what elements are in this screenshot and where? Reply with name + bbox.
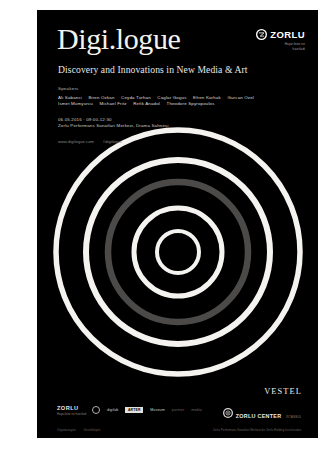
zorlu-center-mark-icon	[223, 408, 233, 418]
speaker-name: Efren Karhak	[193, 95, 221, 100]
header-block: Digi.logue Discovery and Innovations in …	[57, 24, 267, 144]
event-venue: Zorlu Performans Sanatlari Merkezi, Dram…	[58, 123, 267, 129]
footer-right-note: Zorlu Performans Sanatlari Merkezi bir Z…	[213, 428, 302, 432]
ring-3	[108, 182, 248, 322]
zorlu-tagline-line2: hazirladi	[293, 47, 305, 51]
speaker-name: Theodore Spyropoulos	[167, 101, 215, 106]
speaker-name: Biren Ozkan	[88, 95, 114, 100]
speakers-row-2: Ismet MumyurcuMichael FritzRefik AnadolT…	[58, 101, 267, 108]
speaker-name: Ali Sabanci	[58, 95, 82, 100]
footer-zorlu-subtitle: Hayat bize ne hazirladi	[57, 413, 87, 417]
website-url[interactable]: www.digilogue.com	[58, 139, 94, 144]
sponsor-arter: ARTER	[125, 407, 143, 413]
footer-zorlu-logo: ZORLU Hayat bize ne hazirladi	[57, 405, 87, 417]
ring-2	[134, 208, 222, 296]
ring-4	[86, 160, 270, 344]
footer-credits: OrganizasyonDestekleyen	[57, 428, 100, 432]
url-block: www.digilogue.com #digilogue	[58, 139, 267, 144]
poster-title: Digi.logue	[57, 24, 267, 54]
sponsor-ring-logo	[92, 406, 100, 414]
sponsor-digilab: digilab	[107, 407, 118, 413]
zorlu-center-logo: ZORLU CENTER ISTANBUL	[223, 404, 302, 422]
speakers-row-1: Ali SabanciBiren OzkanCeyda TurhanCaglar…	[58, 95, 267, 102]
footer-right-logos: VESTEL ZORLU CENTER ISTANBUL	[223, 387, 302, 422]
speaker-name: Refik Anadol	[133, 101, 160, 106]
speaker-name: Ceyda Turhan	[121, 95, 151, 100]
ring-1	[157, 231, 199, 273]
speaker-name: Ismet Mumyurcu	[58, 101, 93, 106]
sponsor-museum: Museum	[150, 407, 165, 413]
sponsor-partner-a: partner	[172, 407, 184, 413]
speaker-name: Gurcan Ozel	[227, 95, 254, 100]
zorlu-header-logo: ZORLU Hayat bize ne hazirladi	[256, 29, 305, 51]
poster-subtitle: Discovery and Innovations in New Media &…	[58, 64, 267, 76]
speakers-label: Speakers	[58, 86, 267, 92]
zorlu-logo-row: ZORLU	[256, 29, 305, 40]
sponsor-partner-b: media	[191, 407, 202, 413]
sponsor-logo-strip: digilabARTERMuseumpartnermedia	[92, 406, 202, 414]
zorlu-center-wordmark: ZORLU CENTER	[236, 413, 282, 419]
poster-footer: ZORLU Hayat bize ne hazirladi digilabART…	[37, 380, 318, 438]
zorlu-tagline-line1: Hayat bize ne	[285, 42, 305, 46]
zorlu-center-subtitle: ISTANBUL	[286, 416, 302, 419]
speaker-name: Caglar Gogus	[157, 95, 186, 100]
poster-canvas: Digi.logue Discovery and Innovations in …	[37, 10, 318, 438]
speaker-name: Michael Fritz	[99, 101, 126, 106]
speakers-block: Speakers Ali SabanciBiren OzkanCeyda Tur…	[58, 86, 267, 108]
zorlu-wordmark: ZORLU	[270, 30, 305, 40]
footer-credit-item: Organizasyon	[57, 428, 76, 432]
sponsor-badge-label: ARTER	[125, 407, 143, 413]
footer-zorlu-wordmark: ZORLU	[57, 405, 87, 412]
zorlu-circle-mark-icon	[256, 29, 267, 40]
event-info-block: 06.05.2016 · 09:00-12:30 Zorlu Performan…	[58, 117, 267, 130]
footer-left-logos: ZORLU Hayat bize ne hazirladi	[57, 405, 87, 422]
footer-credit-item: Destekleyen	[84, 428, 101, 432]
sponsor-ring-icon	[92, 406, 100, 414]
hashtag[interactable]: #digilogue	[103, 139, 122, 144]
ring-5	[56, 130, 300, 374]
vestel-wordmark: VESTEL	[223, 387, 302, 397]
